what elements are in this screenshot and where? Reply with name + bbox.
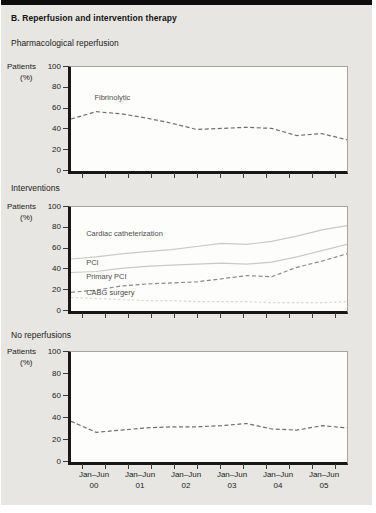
- y-tick-mark: [63, 268, 68, 269]
- x-tick-mark: [128, 464, 129, 469]
- y-tick-mark: [63, 461, 68, 462]
- y-tick-mark: [63, 395, 68, 396]
- x-tick-mark: [82, 313, 83, 318]
- y-tick-label: 20: [52, 285, 61, 294]
- plot-area: Fibrinolytic: [68, 66, 348, 174]
- y-tick-label: 40: [52, 124, 61, 133]
- plot-area: Cardiac catheterizationPCIPrimary PCICAB…: [68, 206, 348, 314]
- x-tick-mark: [220, 313, 221, 318]
- y-tick-mark: [63, 289, 68, 290]
- series-label-pci: PCI: [86, 258, 99, 267]
- y-tick-mark: [63, 248, 68, 249]
- y-axis-unit: (%): [20, 213, 32, 222]
- y-axis-label: Patients: [7, 62, 36, 71]
- series-label-cardiac-catheterization: Cardiac catheterization: [86, 229, 163, 238]
- y-tick-label: 80: [52, 369, 61, 378]
- panel-no-reperfusions: No reperfusions Patients (%) 10080604020…: [1, 0, 372, 505]
- x-tick-mark: [266, 313, 267, 318]
- series-label-cabg-surgery: CABG surgery: [86, 288, 134, 297]
- x-axis-label-05: Jan–Jun05: [294, 470, 354, 491]
- x-tick-mark: [174, 173, 175, 178]
- panel-interventions: Interventions Patients (%) 100806040200 …: [1, 0, 372, 505]
- series-line-no-reperfusion: [71, 421, 347, 432]
- y-tick-label: 100: [48, 62, 61, 71]
- x-tick-mark: [335, 173, 336, 178]
- series-line-cabg-surgery: [71, 298, 347, 303]
- series-label-primary-pci: Primary PCI: [86, 272, 126, 281]
- x-tick-mark: [197, 173, 198, 178]
- x-tick-mark: [197, 313, 198, 318]
- series-label-fibrinolytic: Fibrinolytic: [94, 93, 130, 102]
- x-tick-mark: [151, 173, 152, 178]
- y-tick-label: 60: [52, 391, 61, 400]
- series-line-fibrinolytic: [71, 112, 347, 140]
- y-tick-mark: [63, 128, 68, 129]
- x-tick-mark: [243, 464, 244, 469]
- x-tick-mark: [128, 173, 129, 178]
- x-tick-mark: [128, 313, 129, 318]
- y-tick-mark: [63, 108, 68, 109]
- y-tick-label: 40: [52, 413, 61, 422]
- y-tick-label: 20: [52, 145, 61, 154]
- y-axis-unit: (%): [20, 73, 32, 82]
- x-tick-mark: [105, 313, 106, 318]
- x-tick-mark: [289, 313, 290, 318]
- x-tick-mark: [174, 464, 175, 469]
- figure-panel: B. Reperfusion and intervention therapy …: [1, 0, 372, 505]
- x-tick-mark: [289, 173, 290, 178]
- y-tick-mark: [63, 227, 68, 228]
- panel-title: No reperfusions: [11, 330, 71, 340]
- x-tick-mark: [151, 313, 152, 318]
- y-axis-label: Patients: [7, 347, 36, 356]
- x-tick-mark: [335, 313, 336, 318]
- y-tick-label: 40: [52, 264, 61, 273]
- y-tick-mark: [63, 417, 68, 418]
- y-tick-mark: [63, 373, 68, 374]
- x-tick-mark: [312, 464, 313, 469]
- x-tick-marks-row: [71, 173, 347, 179]
- y-tick-label: 0: [57, 166, 61, 175]
- x-tick-mark: [312, 313, 313, 318]
- top-border-bar: [1, 0, 372, 5]
- line-chart-svg: [71, 207, 347, 311]
- y-tick-mark: [63, 310, 68, 311]
- panel-title: Interventions: [11, 183, 60, 193]
- x-tick-mark: [243, 173, 244, 178]
- plot-area: [68, 351, 348, 465]
- y-tick-label: 20: [52, 435, 61, 444]
- y-tick-label: 100: [48, 347, 61, 356]
- y-tick-mark: [63, 439, 68, 440]
- y-tick-mark: [63, 170, 68, 171]
- x-tick-mark: [266, 464, 267, 469]
- panel-title: Pharmacological reperfusion: [11, 38, 119, 48]
- line-chart-svg: [71, 352, 347, 462]
- x-tick-mark: [174, 313, 175, 318]
- series-line-pci: [71, 244, 347, 272]
- x-tick-mark: [82, 173, 83, 178]
- x-tick-mark: [220, 464, 221, 469]
- x-tick-marks-row: [71, 313, 347, 319]
- x-tick-mark: [243, 313, 244, 318]
- y-tick-label: 60: [52, 243, 61, 252]
- x-tick-mark: [82, 464, 83, 469]
- y-tick-mark: [63, 149, 68, 150]
- x-tick-mark: [105, 173, 106, 178]
- x-axis-label-year: 05: [294, 481, 354, 492]
- x-tick-mark: [289, 464, 290, 469]
- x-axis-label-period: Jan–Jun: [294, 470, 354, 481]
- x-tick-mark: [197, 464, 198, 469]
- x-tick-mark: [312, 173, 313, 178]
- y-tick-label: 0: [57, 306, 61, 315]
- y-tick-label: 0: [57, 457, 61, 466]
- y-tick-mark: [63, 87, 68, 88]
- x-tick-mark: [105, 464, 106, 469]
- y-tick-mark: [63, 351, 68, 352]
- y-tick-label: 60: [52, 103, 61, 112]
- x-axis-labels: Jan–Jun00Jan–Jun01Jan–Jun02Jan–Jun03Jan–…: [71, 470, 347, 494]
- series-line-cardiac-catheterization: [71, 226, 347, 259]
- y-tick-mark: [63, 206, 68, 207]
- y-tick-label: 80: [52, 82, 61, 91]
- y-tick-label: 80: [52, 222, 61, 231]
- panel-pharmacological-reperfusion: Pharmacological reperfusion Patients (%)…: [1, 0, 372, 505]
- line-chart-svg: [71, 67, 347, 171]
